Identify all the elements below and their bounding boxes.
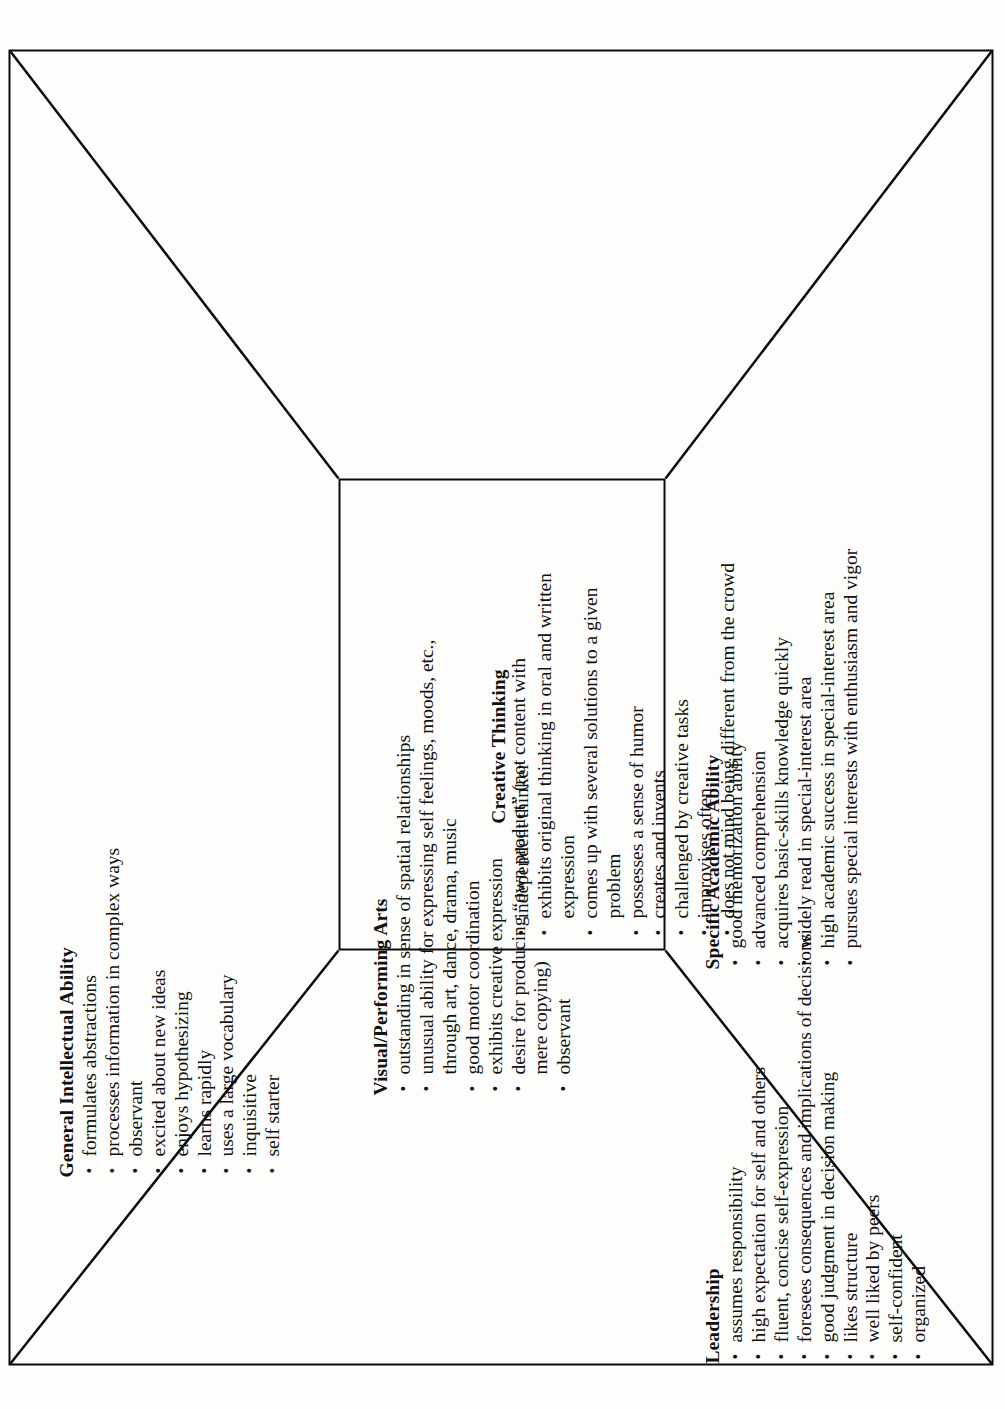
bullet-icon: • (533, 929, 556, 935)
bullet-icon: • (579, 929, 602, 935)
section-title: Creative Thinking (486, 519, 509, 939)
list-item: •high expectation for self and others (747, 933, 770, 1363)
list-item: •fluent, concise self-expression (770, 933, 793, 1363)
section-specific-academic-ability: Specific Academic Ability •good memoriza… (700, 469, 861, 969)
section-leadership: Leadership •assumes responsibility •high… (700, 933, 930, 1363)
bullet-icon: • (392, 1085, 415, 1091)
bullet-icon: • (101, 1167, 124, 1173)
bullet-icon: • (484, 1085, 507, 1091)
list-item: •good memorization ability (724, 469, 747, 969)
list-item: •observant (124, 747, 147, 1177)
diagram-rotation-wrapper: General Intellectual Ability •formulates… (0, 0, 1005, 1409)
list-item: •acquires basic-skills knowledge quickly (770, 469, 793, 969)
list-item: •exhibits original thinking in oral and … (533, 519, 579, 939)
section-title: Specific Academic Ability (700, 469, 723, 969)
bullet-icon: • (816, 1353, 839, 1359)
list-item: •challenged by creative tasks (670, 519, 693, 939)
bullet-icon: • (507, 1085, 530, 1091)
list-item: •pursues special interests with enthusia… (839, 469, 862, 969)
list-item: •excited about new ideas (147, 747, 170, 1177)
bullet-icon: • (861, 1353, 884, 1359)
list-item: •good motor coordination (461, 625, 484, 1095)
list-item: •learns rapidly (193, 747, 216, 1177)
bullet-icon: • (770, 1353, 793, 1359)
list-item: •well liked by peers (861, 933, 884, 1363)
section-list: •formulates abstractions •processes info… (78, 747, 284, 1177)
list-item: •self starter (261, 747, 284, 1177)
bullet-icon: • (147, 1167, 170, 1173)
list-item: •inquisitive (238, 747, 261, 1177)
bullet-icon: • (193, 1167, 216, 1173)
list-item: •unusual ability for expressing self fee… (415, 625, 461, 1095)
section-title: Visual/Performing Arts (368, 625, 391, 1095)
list-item: •likes structure (839, 933, 862, 1363)
bullet-icon: • (510, 929, 533, 935)
bullet-icon: • (78, 1167, 101, 1173)
bullet-icon: • (215, 1167, 238, 1173)
list-item: •processes information in complex ways (101, 747, 124, 1177)
bullet-icon: • (647, 929, 670, 935)
list-item: •advanced comprehension (747, 469, 770, 969)
bullet-icon: • (461, 1085, 484, 1091)
list-item: •outstanding in sense of spatial relatio… (392, 625, 415, 1095)
bullet-icon: • (907, 1353, 930, 1359)
section-title: Leadership (700, 933, 723, 1363)
diagram-page: General Intellectual Ability •formulates… (0, 0, 1005, 1409)
list-item: •widely read in special-interest area (793, 469, 816, 969)
list-item: •assumes responsibility (724, 933, 747, 1363)
bullet-icon: • (625, 929, 648, 935)
bullet-icon: • (124, 1167, 147, 1173)
section-list: •assumes responsibility •high expectatio… (724, 933, 930, 1363)
list-item: •foresees consequences and implications … (793, 933, 816, 1363)
section-list: •good memorization ability •advanced com… (724, 469, 861, 969)
list-item: •enjoys hypothesizing (170, 747, 193, 1177)
bullet-icon: • (724, 1353, 747, 1359)
list-item: •independent thinker (510, 519, 533, 939)
list-item: •possesses a sense of humor (625, 519, 648, 939)
list-item: •creates and invents (647, 519, 670, 939)
bullet-icon: • (839, 1353, 862, 1359)
list-item: •comes up with several solutions to a gi… (579, 519, 625, 939)
list-item: •self-confident (884, 933, 907, 1363)
section-title: General Intellectual Ability (54, 747, 77, 1177)
list-item: •uses a large vocabulary (215, 747, 238, 1177)
bullet-icon: • (415, 1085, 438, 1091)
list-item: •formulates abstractions (78, 747, 101, 1177)
section-general-intellectual-ability: General Intellectual Ability •formulates… (54, 747, 284, 1177)
list-item: •organized (907, 933, 930, 1363)
bullet-icon: • (261, 1167, 284, 1173)
bullet-icon: • (670, 929, 693, 935)
list-item: •high academic success in special-intere… (816, 469, 839, 969)
bullet-icon: • (170, 1167, 193, 1173)
list-item: •good judgment in decision making (816, 933, 839, 1363)
bullet-icon: • (884, 1353, 907, 1359)
bullet-icon: • (552, 1085, 575, 1091)
bullet-icon: • (238, 1167, 261, 1173)
bullet-icon: • (793, 1353, 816, 1359)
bullet-icon: • (747, 1353, 770, 1359)
